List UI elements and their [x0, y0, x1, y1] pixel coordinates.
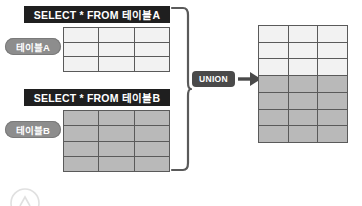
grid-table-b — [63, 110, 170, 172]
grid-cell — [289, 110, 318, 126]
grid-cell — [318, 110, 347, 126]
table-pill-label-b: 테이블B — [16, 123, 50, 137]
grid-cell — [99, 111, 133, 125]
grid-cell — [99, 157, 133, 171]
grid-cell — [135, 28, 169, 42]
union-operator-label: UNION — [199, 74, 228, 84]
grid-cell — [259, 26, 288, 42]
query-bar-a: SELECT * FROM 테이블A — [24, 6, 170, 23]
diagram-canvas: SELECT * FROM 테이블A 테이블A SELECT * FROM 테이… — [0, 0, 362, 206]
grid-cell — [64, 157, 98, 171]
grid-cell — [99, 43, 133, 57]
grid-cell — [135, 57, 169, 71]
grid-cell — [259, 43, 288, 59]
grid-cell — [318, 26, 347, 42]
grid-cell — [289, 76, 318, 92]
grid-cell — [99, 126, 133, 140]
union-operator-badge: UNION — [192, 71, 235, 87]
table-pill-a: 테이블A — [5, 38, 61, 55]
grid-cell — [135, 142, 169, 156]
grid-cell — [135, 157, 169, 171]
grid-cell — [135, 126, 169, 140]
grid-cell — [318, 76, 347, 92]
query-statement-a: SELECT * FROM 테이블A — [34, 7, 160, 22]
grid-cell — [318, 93, 347, 109]
table-pill-label-a: 테이블A — [16, 40, 50, 54]
grid-cell — [289, 93, 318, 109]
grid-cell — [99, 142, 133, 156]
grid-cell — [259, 76, 288, 92]
grid-cell — [289, 26, 318, 42]
grid-result-table — [258, 25, 348, 143]
query-bar-b: SELECT * FROM 테이블B — [24, 89, 170, 106]
grid-cell — [259, 110, 288, 126]
watermark-circle-icon — [8, 186, 42, 206]
grid-cell — [318, 59, 347, 75]
grid-cell — [259, 93, 288, 109]
grid-cell — [99, 57, 133, 71]
table-pill-b: 테이블B — [5, 121, 61, 138]
grid-cell — [318, 126, 347, 142]
grouping-bracket — [170, 6, 192, 172]
grid-cell — [135, 111, 169, 125]
grid-cell — [289, 59, 318, 75]
grid-cell — [64, 28, 98, 42]
grid-cell — [289, 126, 318, 142]
grid-cell — [64, 43, 98, 57]
grid-cell — [318, 43, 347, 59]
grid-cell — [64, 57, 98, 71]
grid-cell — [99, 28, 133, 42]
grid-cell — [135, 43, 169, 57]
grid-table-a — [63, 27, 170, 72]
grid-cell — [64, 126, 98, 140]
grid-cell — [64, 111, 98, 125]
grid-cell — [64, 142, 98, 156]
grid-cell — [259, 126, 288, 142]
grid-cell — [289, 43, 318, 59]
query-statement-b: SELECT * FROM 테이블B — [34, 90, 160, 105]
grid-cell — [259, 59, 288, 75]
